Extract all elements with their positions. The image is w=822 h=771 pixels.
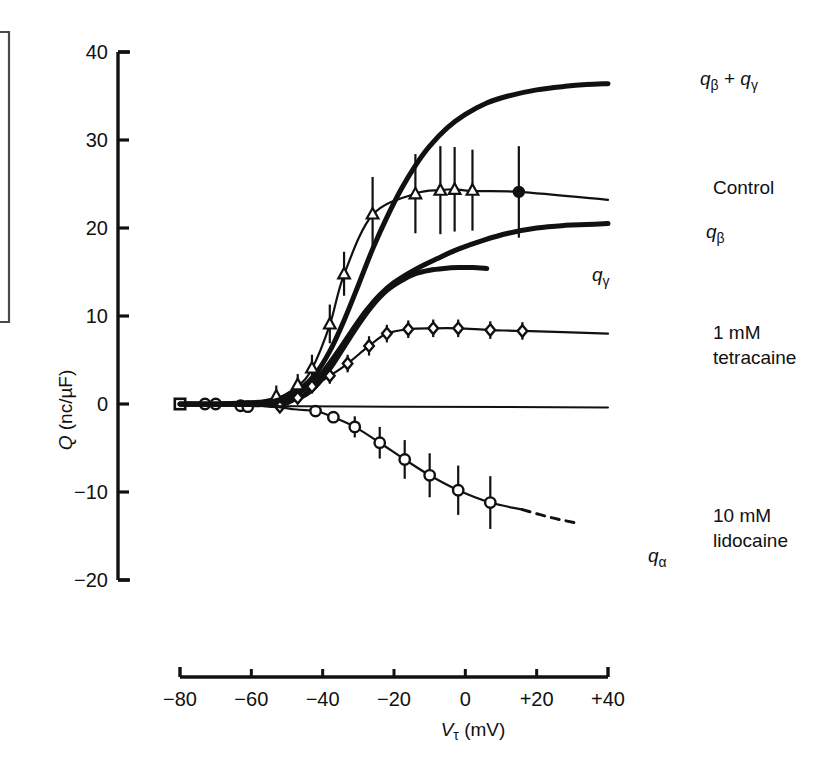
label-lidocaine-line2: lidocaine (713, 530, 788, 551)
data-marker-diamond (382, 328, 392, 340)
series-q_beta (180, 224, 608, 404)
series-line (180, 267, 487, 404)
label-lidocaine-line1: 10 mM (713, 505, 771, 526)
data-marker-circle (375, 438, 385, 448)
x-tick-label: −20 (377, 688, 411, 710)
svg-text:Q (nc/µF): Q (nc/µF) (55, 370, 76, 451)
data-marker-diamond (486, 324, 496, 336)
svg-text:Vτ (mV): Vτ (mV) (441, 719, 506, 743)
label-q-beta: qβ (706, 221, 725, 246)
series-tetracaine_1mm (180, 320, 608, 413)
label-control: Control (713, 177, 774, 198)
series-line (180, 404, 522, 510)
label-q-beta-plus-q-gamma: qβ + qγ (700, 68, 758, 93)
data-marker-diamond (428, 323, 438, 335)
x-tick-label: +20 (520, 688, 554, 710)
series-line (180, 224, 608, 404)
x-axis-title: Vτ (mV) (441, 719, 506, 743)
data-marker-triangle-up (410, 188, 422, 199)
series-control (175, 146, 608, 412)
x-axis: −80−60−40−200+20+40 (163, 667, 625, 710)
x-tick-label: +40 (591, 688, 625, 710)
data-marker-circle (350, 422, 360, 432)
x-tick-label: −40 (306, 688, 340, 710)
y-tick-label: −10 (74, 481, 108, 503)
figure-panel: −20−10010203040 Q (nc/µF) −80−60−40−200+… (0, 0, 822, 771)
data-marker-triangle-up (292, 379, 304, 390)
series-line (180, 328, 608, 407)
data-marker-circle (424, 470, 434, 480)
y-tick-label: 10 (86, 305, 108, 327)
y-tick-label: 40 (86, 41, 108, 63)
x-tick-label: −80 (163, 688, 197, 710)
data-marker-triangle-up (449, 183, 461, 194)
data-marker-circle-filled (514, 187, 524, 197)
curve-labels: qβ + qγ Control qβ qγ 1 mM tetracaine 10… (592, 68, 796, 570)
x-tick-label: −60 (234, 688, 268, 710)
y-axis-title-units: (nc/µF) (55, 370, 76, 431)
y-tick-label: 20 (86, 217, 108, 239)
charge-voltage-chart: −20−10010203040 Q (nc/µF) −80−60−40−200+… (0, 0, 822, 771)
label-q-alpha: qα (648, 545, 667, 570)
x-axis-title-units: (mV) (464, 719, 505, 740)
series-layer (175, 84, 608, 529)
data-marker-circle (400, 454, 410, 464)
series-line (180, 84, 608, 404)
y-axis-title: Q (nc/µF) (55, 370, 76, 451)
y-tick-label: −20 (74, 569, 108, 591)
series-line (180, 189, 608, 406)
data-marker-triangle-up (306, 362, 318, 373)
series-line-dashed (522, 510, 579, 524)
data-marker-diamond (403, 323, 413, 335)
label-q-gamma: qγ (592, 264, 610, 289)
data-marker-diamond (518, 325, 528, 337)
y-axis: −20−10010203040 (74, 41, 130, 591)
data-marker-triangle-up (324, 318, 336, 329)
x-tick-label: 0 (460, 688, 471, 710)
data-marker-circle (328, 412, 338, 422)
data-marker-diamond (453, 323, 463, 335)
label-tetracaine-line1: 1 mM (713, 322, 761, 343)
label-tetracaine-line2: tetracaine (713, 347, 796, 368)
data-marker-triangle-up (467, 184, 479, 195)
x-tick-labels: −80−60−40−200+20+40 (163, 688, 625, 710)
y-tick-label: 0 (97, 393, 108, 415)
y-tick-labels: −20−10010203040 (74, 41, 108, 591)
series-q_beta + q_gamma (180, 84, 608, 404)
data-marker-triangle-up (435, 184, 447, 195)
figure-frame-fragment (0, 32, 9, 322)
data-marker-circle (453, 485, 463, 495)
data-marker-circle (310, 406, 320, 416)
y-axis-title-symbol: Q (55, 435, 76, 450)
y-tick-label: 30 (86, 129, 108, 151)
series-lidocaine_10mm (180, 404, 579, 529)
data-marker-triangle-up (338, 268, 350, 279)
data-marker-circle (485, 497, 495, 507)
series-q_gamma (180, 267, 487, 404)
